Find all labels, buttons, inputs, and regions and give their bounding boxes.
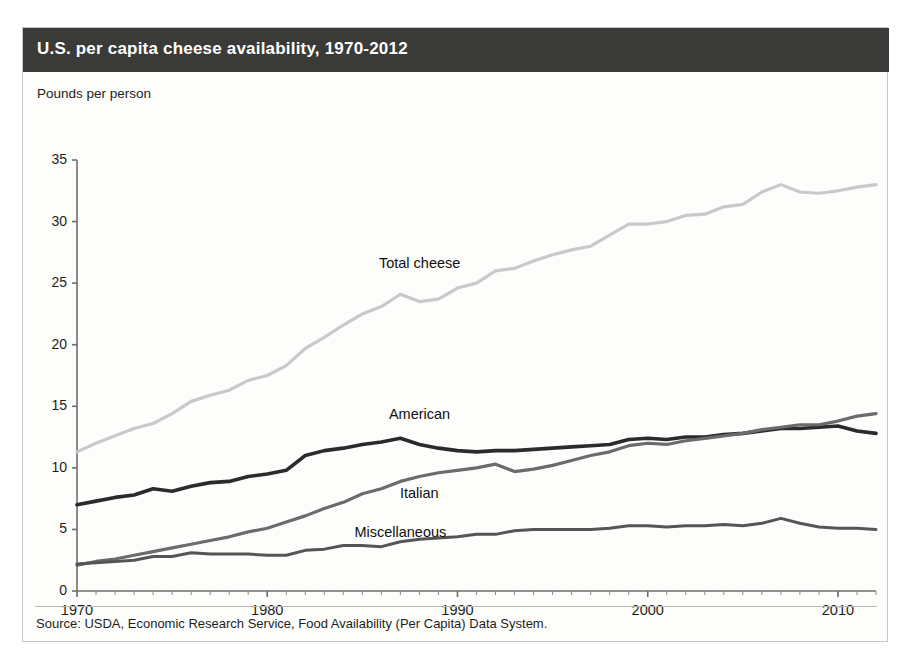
axes bbox=[77, 160, 876, 591]
x-tick-label: 2010 bbox=[808, 602, 868, 618]
axis-major-ticks bbox=[72, 160, 838, 597]
y-tick-label: 25 bbox=[33, 274, 67, 290]
line-chart-svg bbox=[23, 72, 889, 600]
y-tick-label: 30 bbox=[33, 213, 67, 229]
series-label-american: American bbox=[389, 406, 450, 422]
y-tick-label: 20 bbox=[33, 336, 67, 352]
source-divider bbox=[35, 606, 877, 607]
y-tick-label: 10 bbox=[33, 459, 67, 475]
series-label-total-cheese: Total cheese bbox=[379, 255, 460, 271]
chart-title-bar: U.S. per capita cheese availability, 197… bbox=[23, 28, 889, 72]
series-label-miscellaneous: Miscellaneous bbox=[354, 524, 446, 540]
series-label-italian: Italian bbox=[400, 485, 439, 501]
y-tick-label: 35 bbox=[33, 151, 67, 167]
source-note: Source: USDA, Economic Research Service,… bbox=[36, 616, 547, 631]
y-tick-label: 5 bbox=[33, 520, 67, 536]
y-tick-label: 15 bbox=[33, 397, 67, 413]
y-tick-label: 0 bbox=[33, 582, 67, 598]
chart-figure: U.S. per capita cheese availability, 197… bbox=[22, 27, 888, 642]
page-title: U.S. per capita cheese availability, 197… bbox=[37, 39, 408, 59]
data-series bbox=[77, 185, 876, 566]
plot-area: Total cheese American Italian Miscellane… bbox=[23, 72, 889, 600]
x-tick-label: 2000 bbox=[618, 602, 678, 618]
